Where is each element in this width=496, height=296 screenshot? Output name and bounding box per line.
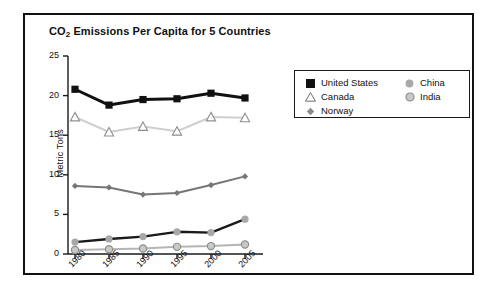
y-axis-tick-label: 10 (37, 170, 59, 179)
legend-column-right: China India (403, 76, 445, 104)
chart-figure-frame: CO2 Emissions Per Capita for 5 Countries… (23, 13, 474, 275)
y-axis-tick-label: 0 (37, 249, 59, 258)
legend-item-norway[interactable]: Norway (304, 104, 378, 118)
series-china (71, 216, 248, 246)
y-axis-tick-label: 5 (37, 209, 59, 218)
small-diamond-icon (304, 105, 317, 118)
open-triangle-icon (304, 91, 317, 104)
y-axis-tick-label: 20 (37, 91, 59, 100)
legend-item-india[interactable]: India (403, 90, 445, 104)
legend-label-norway: Norway (321, 106, 353, 116)
legend-item-china[interactable]: China (403, 76, 445, 90)
series-india (71, 241, 248, 254)
legend-item-united-states[interactable]: United States (304, 76, 378, 90)
series-norway (72, 173, 248, 197)
ring-circle-icon (403, 91, 416, 104)
legend-label-india: India (420, 92, 441, 102)
legend-label-canada: Canada (321, 92, 354, 102)
y-axis-tick-label: 25 (37, 51, 59, 60)
plot-area (25, 15, 476, 277)
chart-legend: United States Canada Norway China (294, 70, 470, 118)
legend-item-canada[interactable]: Canada (304, 90, 378, 104)
filled-square-icon (304, 77, 317, 90)
legend-label-china: China (420, 78, 445, 88)
series-united-states (71, 86, 248, 109)
legend-column-left: United States Canada Norway (304, 76, 378, 118)
series-canada (70, 112, 249, 136)
legend-label-united-states: United States (321, 78, 378, 88)
y-axis-tick-label: 15 (37, 130, 59, 139)
filled-circle-icon (403, 77, 416, 90)
